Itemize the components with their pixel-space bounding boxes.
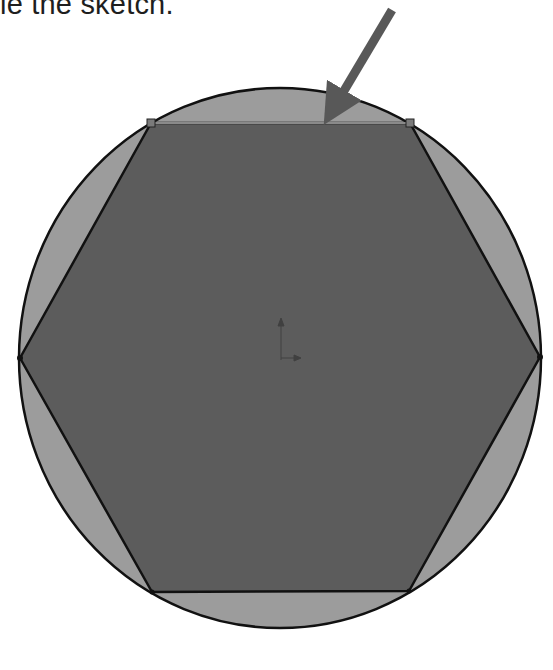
vertex-marker-top-right[interactable]	[406, 119, 414, 127]
vertex-marker-top-left[interactable]	[147, 119, 155, 127]
vertex-point-right[interactable]	[537, 354, 543, 360]
vertex-point-bottom-right[interactable]	[407, 589, 412, 594]
vertex-point-left[interactable]	[17, 355, 23, 361]
sketch-figure	[0, 0, 553, 670]
vertex-point-bottom-left[interactable]	[150, 590, 155, 595]
pointer-arrow	[332, 10, 392, 111]
